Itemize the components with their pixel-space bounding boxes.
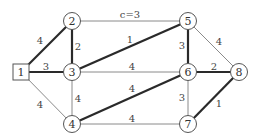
node-3: 3 — [64, 64, 81, 81]
edge-weight-5-8: 4 — [216, 36, 222, 47]
node-1: 1 — [13, 64, 29, 80]
edge-7-8 — [188, 72, 239, 124]
weighted-graph-diagram: 4342c=31444434231 12345678 — [0, 0, 268, 138]
node-label: 8 — [236, 66, 243, 79]
edge-weight-7-8: 1 — [216, 98, 222, 109]
node-8: 8 — [231, 64, 248, 81]
edge-weight-6-8: 2 — [211, 61, 217, 72]
edge-weight-4-6: 4 — [129, 83, 135, 94]
node-4: 4 — [64, 116, 81, 133]
edge-weight-5-6: 3 — [179, 40, 185, 51]
node-label: 7 — [185, 118, 192, 131]
edge-weight-4-7: 4 — [129, 113, 135, 124]
node-5: 5 — [180, 13, 197, 30]
edge-weight-1-4: 4 — [37, 99, 43, 110]
edge-weight-1-3: 3 — [43, 61, 49, 72]
node-label: 4 — [69, 118, 76, 131]
node-label: 3 — [69, 66, 76, 79]
node-7: 7 — [180, 116, 197, 133]
edge-weight-1-2: 4 — [37, 35, 43, 46]
node-label: 6 — [185, 66, 192, 79]
node-6: 6 — [180, 64, 197, 81]
edge-weight-2-3: 2 — [75, 41, 81, 52]
node-label: 5 — [185, 15, 192, 28]
node-2: 2 — [64, 13, 81, 30]
node-label: 2 — [69, 15, 76, 28]
edge-weight-3-5: 1 — [127, 34, 133, 45]
node-label: 1 — [18, 66, 25, 79]
edge-weight-2-5: c=3 — [120, 9, 140, 20]
edge-weight-3-4: 4 — [75, 93, 81, 104]
edge-weight-3-6: 4 — [129, 61, 135, 72]
edge-weight-6-7: 3 — [179, 92, 185, 103]
